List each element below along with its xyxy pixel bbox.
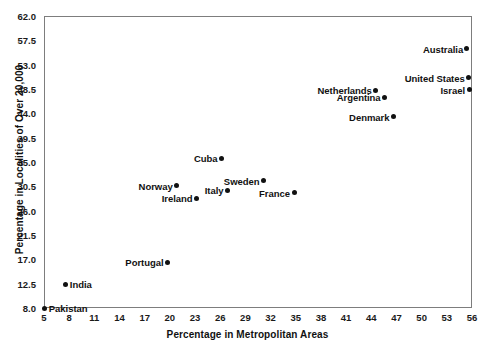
x-tick-label: 44 bbox=[366, 312, 377, 323]
x-tick-label: 23 bbox=[190, 312, 201, 323]
x-tick-label: 5 bbox=[41, 312, 46, 323]
scatter-plot-figure: 8.012.517.021.526.030.535.039.544.048.55… bbox=[0, 0, 495, 351]
y-axis-title: Percentage in Localities of Over 20,000 bbox=[14, 45, 25, 275]
x-tick-label: 14 bbox=[114, 312, 125, 323]
data-point-label: Cuba bbox=[194, 153, 218, 164]
data-point-label: Ireland bbox=[162, 193, 193, 204]
data-point-label: Italy bbox=[205, 185, 224, 196]
data-point[interactable] bbox=[225, 188, 230, 193]
y-tick-label: 62.0 bbox=[18, 11, 37, 22]
data-point[interactable] bbox=[42, 306, 47, 311]
x-axis-title: Percentage in Metropolitan Areas bbox=[0, 329, 495, 340]
x-tick-label: 38 bbox=[316, 312, 327, 323]
data-point-label: Denmark bbox=[349, 111, 389, 122]
x-tick-label: 17 bbox=[139, 312, 150, 323]
data-point[interactable] bbox=[292, 190, 297, 195]
x-tick-label: 32 bbox=[265, 312, 276, 323]
x-tick-label: 56 bbox=[467, 312, 478, 323]
data-point[interactable] bbox=[165, 260, 170, 265]
x-tick-label: 20 bbox=[165, 312, 176, 323]
data-point-label: Norway bbox=[139, 180, 173, 191]
data-point-label: Australia bbox=[423, 43, 463, 54]
data-point-label: Sweden bbox=[224, 175, 260, 186]
data-point-label: Israel bbox=[440, 84, 465, 95]
x-tick-label: 26 bbox=[215, 312, 226, 323]
x-tick-label: 35 bbox=[290, 312, 301, 323]
data-point[interactable] bbox=[391, 114, 396, 119]
data-point-label: India bbox=[70, 279, 92, 290]
data-point-label: France bbox=[259, 187, 290, 198]
data-point-label: Argentina bbox=[337, 92, 381, 103]
data-point-label: Pakistan bbox=[49, 303, 88, 314]
x-tick-label: 29 bbox=[240, 312, 251, 323]
x-tick-label: 8 bbox=[67, 312, 72, 323]
x-tick-label: 50 bbox=[416, 312, 427, 323]
x-tick-label: 53 bbox=[442, 312, 453, 323]
y-tick-label: 12.5 bbox=[18, 278, 37, 289]
y-tick-label: 8.0 bbox=[23, 303, 36, 314]
x-tick-label: 47 bbox=[391, 312, 402, 323]
data-point[interactable] bbox=[194, 196, 199, 201]
data-point[interactable] bbox=[382, 95, 387, 100]
data-point-label: Portugal bbox=[125, 257, 163, 268]
plot-area bbox=[44, 16, 472, 308]
x-tick-label: 11 bbox=[89, 312, 99, 323]
data-point[interactable] bbox=[467, 87, 472, 92]
data-point-label: United States bbox=[405, 72, 465, 83]
x-tick-label: 41 bbox=[341, 312, 352, 323]
